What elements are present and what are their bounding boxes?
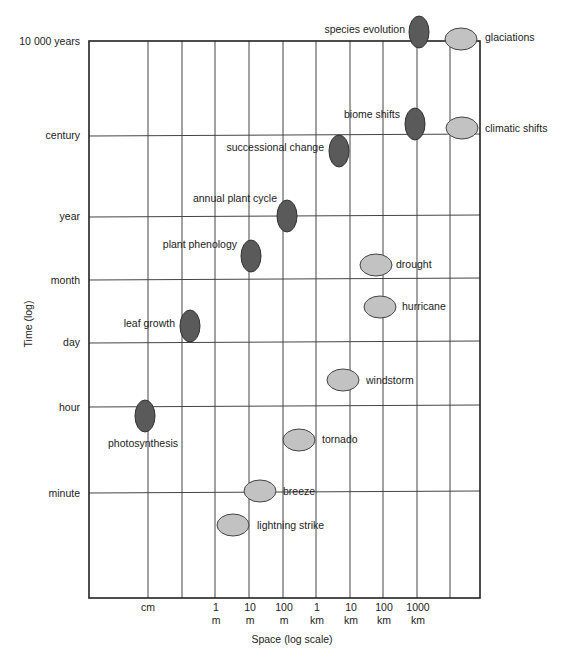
x-axis-title: Space (log scale) (251, 633, 332, 645)
point-labels: species evolution glaciations biome shif… (108, 23, 547, 531)
label-photosynthesis: photosynthesis (108, 437, 178, 449)
y-axis-title: Time (log) (22, 301, 34, 348)
windstorm-marker (327, 369, 359, 391)
x-tick-1km-unit: km (310, 614, 324, 626)
label-windstorm: windstorm (365, 374, 414, 386)
label-biome-shifts: biome shifts (344, 108, 400, 120)
label-tornado: tornado (322, 433, 358, 445)
x-tick-labels: cm 1 m 10 m 100 m 1 km 10 km 100 km 1000… (141, 601, 430, 626)
lightning-strike-marker (217, 514, 249, 536)
drought-marker (360, 254, 392, 276)
physical-disturbance-markers (217, 28, 478, 536)
x-tick-100km: 100 (375, 601, 393, 613)
x-tick-10m-unit: m (246, 614, 255, 626)
x-tick-100m-unit: m (280, 614, 289, 626)
breeze-marker (244, 480, 276, 502)
annual-plant-cycle-marker (277, 200, 297, 232)
x-tick-1km: 1 (314, 601, 320, 613)
x-tick-10m: 10 (244, 601, 256, 613)
x-tick-10km-unit: km (344, 614, 358, 626)
successional-change-marker (329, 135, 349, 167)
label-annual-plant-cycle: annual plant cycle (193, 192, 277, 204)
label-plant-phenology: plant phenology (163, 238, 238, 250)
glaciations-marker (445, 28, 477, 50)
label-hurricane: hurricane (402, 300, 446, 312)
label-breeze: breeze (283, 485, 315, 497)
hurricane-marker (364, 296, 396, 318)
x-tick-1000km-unit: km (411, 614, 425, 626)
x-tick-1m-unit: m (212, 614, 221, 626)
label-glaciations: glaciations (485, 31, 535, 43)
y-tick-labels: 10 000 years century year month day hour… (19, 35, 80, 499)
biome-shifts-marker (405, 108, 425, 140)
label-species-evolution: species evolution (324, 23, 405, 35)
label-climatic-shifts: climatic shifts (485, 122, 547, 134)
leaf-growth-marker (180, 310, 200, 342)
y-tick-century: century (46, 129, 81, 141)
plant-phenology-marker (241, 240, 261, 272)
y-tick-year: year (60, 210, 81, 222)
x-tick-100km-unit: km (377, 614, 391, 626)
label-drought: drought (396, 258, 432, 270)
time-space-diagram: 10 000 years century year month day hour… (0, 0, 563, 660)
y-tick-minute: minute (48, 487, 80, 499)
y-tick-month: month (51, 274, 80, 286)
y-tick-hour: hour (59, 401, 81, 413)
y-tick-day: day (63, 336, 81, 348)
x-tick-1m: 1 (213, 601, 219, 613)
photosynthesis-marker (135, 400, 155, 432)
label-successional-change: successional change (227, 141, 325, 153)
tornado-marker (283, 429, 315, 451)
y-tick-10000-years: 10 000 years (19, 35, 80, 47)
label-lightning-strike: lightning strike (257, 519, 324, 531)
biological-process-markers (135, 16, 429, 432)
x-tick-cm: cm (141, 601, 155, 613)
x-tick-1000km: 1000 (406, 601, 430, 613)
climatic-shifts-marker (446, 117, 478, 139)
species-evolution-marker (409, 16, 429, 48)
x-tick-10km: 10 (345, 601, 357, 613)
label-leaf-growth: leaf growth (124, 317, 176, 329)
x-tick-100m: 100 (275, 601, 293, 613)
